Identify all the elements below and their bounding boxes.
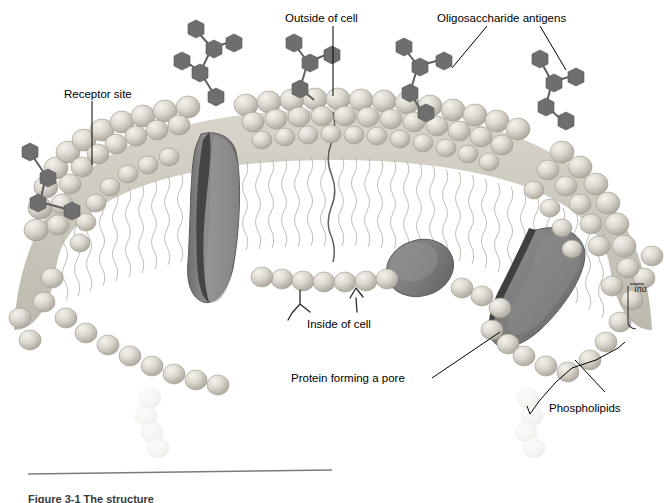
- label-phospholipids: Phospholipids: [549, 402, 621, 414]
- figure-caption: Figure 3-1 The structure: [28, 493, 154, 503]
- label-outside-of-cell: Outside of cell: [285, 12, 358, 24]
- label-inside-of-cell: Inside of cell: [307, 318, 371, 330]
- label-protein-forming-a-pore: Protein forming a pore: [291, 372, 405, 384]
- label-receptor-site: Receptor site: [64, 88, 132, 100]
- handwritten-text: ina: [634, 283, 647, 294]
- label-oligosaccharide-antigens: Oligosaccharide antigens: [437, 12, 566, 24]
